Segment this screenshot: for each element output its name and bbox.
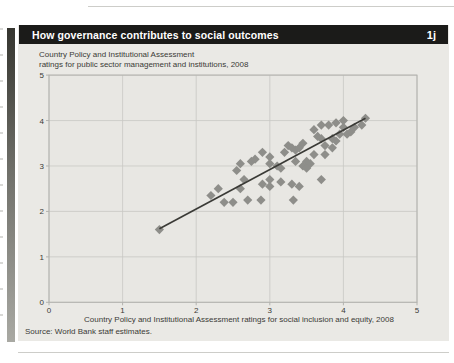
x-tick-label: 3 (268, 306, 273, 315)
y-tick-label: 0 (40, 298, 45, 307)
x-tick-label: 1 (120, 306, 125, 315)
x-axis-label: Country Policy and Institutional Assessm… (49, 315, 429, 324)
x-tick-label: 2 (194, 306, 199, 315)
scatter-chart: 012345012345 (0, 0, 454, 363)
source-note: Source: World Bank staff estimates. (25, 327, 152, 336)
y-tick-label: 5 (40, 71, 45, 80)
y-tick-label: 1 (40, 253, 45, 262)
x-tick-label: 5 (415, 306, 420, 315)
y-tick-label: 4 (40, 117, 45, 126)
x-tick-label: 4 (341, 306, 346, 315)
x-tick-label: 0 (47, 306, 52, 315)
y-tick-label: 2 (40, 207, 45, 216)
y-tick-label: 3 (40, 162, 45, 171)
report-page: How governance contributes to social out… (0, 0, 454, 363)
